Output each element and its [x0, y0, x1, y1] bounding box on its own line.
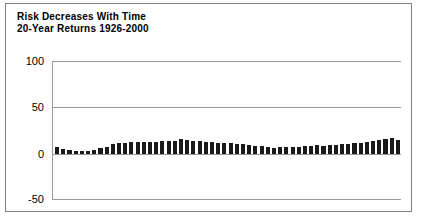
- bar: [371, 141, 375, 154]
- bar: [179, 139, 183, 154]
- bar: [92, 150, 96, 154]
- bar: [396, 140, 400, 154]
- y-axis-labels: 100 50 0 -50: [6, 4, 46, 213]
- bar: [315, 145, 319, 154]
- bar: [352, 143, 356, 154]
- bar: [61, 149, 65, 154]
- bar: [67, 150, 71, 154]
- bar: [111, 144, 115, 154]
- bar: [86, 151, 90, 154]
- bar: [191, 141, 195, 154]
- bar: [154, 142, 158, 154]
- bar: [260, 146, 264, 154]
- bar: [321, 146, 325, 154]
- bar: [291, 147, 295, 154]
- bar: [390, 138, 394, 154]
- title-block: Risk Decreases With Time 20-Year Returns…: [17, 11, 317, 35]
- bar: [185, 140, 189, 154]
- bar: [266, 147, 270, 154]
- bar: [148, 142, 152, 154]
- y-tick-label-100: 100: [6, 55, 44, 67]
- y-tick-label-minus-50: -50: [6, 193, 44, 205]
- bar: [383, 139, 387, 154]
- bar: [340, 144, 344, 154]
- bar: [272, 148, 276, 154]
- bar: [160, 141, 164, 154]
- plot-area: [52, 61, 401, 199]
- bar: [198, 141, 202, 154]
- bar: [284, 147, 288, 154]
- page-title: Risk Decreases With Time: [17, 11, 317, 23]
- bar: [129, 142, 133, 154]
- bar: [328, 145, 332, 154]
- bar: [235, 144, 239, 154]
- bar: [241, 144, 245, 154]
- bar: [309, 146, 313, 154]
- bar: [377, 140, 381, 154]
- bar: [216, 143, 220, 155]
- bar: [334, 145, 338, 154]
- bar: [359, 143, 363, 155]
- bar: [136, 142, 140, 154]
- bar: [253, 146, 257, 154]
- bar: [123, 143, 127, 154]
- bar: [167, 141, 171, 154]
- y-axis-line: [52, 61, 53, 200]
- bar: [247, 145, 251, 154]
- bar: [365, 142, 369, 154]
- bar: [117, 143, 121, 155]
- y-tick-label-50: 50: [6, 101, 44, 113]
- bar: [303, 146, 307, 154]
- gridline-minus-50: [52, 199, 401, 200]
- bar: [74, 151, 78, 154]
- bar: [204, 142, 208, 154]
- bar: [297, 147, 301, 154]
- y-tick-label-0: 0: [6, 148, 44, 160]
- bar: [105, 147, 109, 154]
- bar: [80, 151, 84, 154]
- bar: [229, 143, 233, 154]
- bar-series: [54, 61, 401, 199]
- chart-subtitle: 20-Year Returns 1926-2000: [17, 23, 317, 35]
- bar: [173, 141, 177, 154]
- bar: [55, 147, 59, 154]
- bar: [98, 148, 102, 154]
- bar: [222, 143, 226, 154]
- bar: [210, 142, 214, 154]
- bar: [346, 144, 350, 154]
- bar: [142, 142, 146, 154]
- chart-frame: Risk Decreases With Time 20-Year Returns…: [5, 3, 412, 212]
- bar: [278, 147, 282, 154]
